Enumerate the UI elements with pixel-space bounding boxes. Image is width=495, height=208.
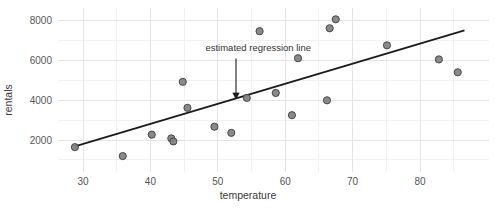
- annotation-label: estimated regression line: [205, 42, 311, 53]
- data-point: [119, 152, 126, 159]
- data-point: [179, 78, 186, 85]
- data-point: [211, 123, 218, 130]
- x-axis-title: temperature: [220, 189, 277, 201]
- data-point: [148, 131, 155, 138]
- y-tick-label: 2000: [30, 135, 53, 146]
- x-tick-label: 30: [77, 176, 89, 187]
- data-point: [184, 104, 191, 111]
- y-tick-label: 6000: [30, 55, 53, 66]
- data-point: [323, 97, 330, 104]
- data-point: [228, 129, 235, 136]
- x-tick-label: 50: [212, 176, 224, 187]
- data-point: [288, 112, 295, 119]
- x-tick-label: 70: [347, 176, 359, 187]
- y-axis-title: rentals: [2, 84, 14, 116]
- data-points-group: [71, 16, 461, 160]
- scatter-chart: 2000400060008000 304050607080 estimated …: [0, 0, 495, 208]
- x-tick-label: 40: [145, 176, 157, 187]
- x-tick-label: 60: [280, 176, 292, 187]
- data-point: [272, 89, 279, 96]
- data-point: [383, 42, 390, 49]
- y-tick-label: 4000: [30, 95, 53, 106]
- data-point: [71, 144, 78, 151]
- data-point: [332, 16, 339, 23]
- y-tick-label: 8000: [30, 15, 53, 26]
- data-point: [326, 25, 333, 32]
- y-axis-tick-labels: 2000400060008000: [30, 15, 53, 145]
- data-point: [243, 94, 250, 101]
- x-axis-tick-labels: 304050607080: [77, 176, 426, 187]
- annotation-group: estimated regression line: [205, 42, 311, 99]
- data-point: [435, 56, 442, 63]
- data-point: [256, 28, 263, 35]
- data-point: [294, 55, 301, 62]
- x-tick-label: 80: [414, 176, 426, 187]
- data-point: [170, 138, 177, 145]
- plot-canvas: 2000400060008000 304050607080 estimated …: [0, 0, 495, 208]
- data-point: [454, 69, 461, 76]
